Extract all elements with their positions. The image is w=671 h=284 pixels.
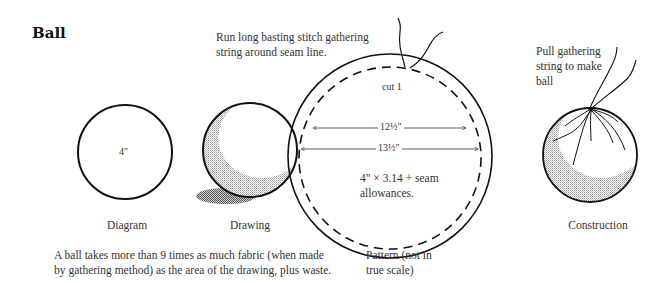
basting-note: Run long basting stitch gathering string… — [216, 30, 369, 60]
cut-label: cut 1 — [382, 81, 402, 92]
caption-construction: Construction — [558, 219, 638, 231]
section-title: Ball — [32, 24, 66, 42]
footnote: A ball takes more than 9 times as much f… — [54, 248, 331, 278]
caption-diagram: Diagram — [92, 219, 162, 231]
caption-pattern: Pattern (not in true scale) — [366, 248, 432, 278]
formula-note: 4" × 3.14 + seam allowances. — [360, 171, 439, 201]
diagram-size-label: 4" — [119, 146, 128, 157]
outer-dimension-label: 13½" — [376, 142, 402, 153]
inner-dimension-label: 12½" — [378, 121, 404, 132]
pull-note: Pull gathering string to make ball — [536, 44, 602, 89]
caption-drawing: Drawing — [215, 219, 285, 231]
drawing-sphere — [196, 98, 306, 204]
